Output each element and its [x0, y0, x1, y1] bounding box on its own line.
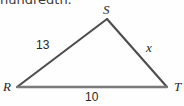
side-length-label-rs: 13 [36, 39, 49, 51]
side-rs-line [17, 19, 107, 87]
geometry-figure: hundredth. S R T 13 x 10 [0, 0, 184, 106]
side-length-label-st: x [146, 41, 152, 54]
vertex-label-t: T [174, 80, 181, 93]
side-st-line [107, 19, 167, 87]
side-length-label-rt: 10 [85, 91, 98, 103]
vertex-label-s: S [103, 3, 110, 16]
vertex-label-r: R [3, 80, 11, 93]
